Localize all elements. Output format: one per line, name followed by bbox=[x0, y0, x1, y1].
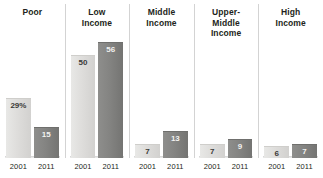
bar-value-label: 9 bbox=[238, 142, 242, 151]
bar-value-label: 29% bbox=[10, 101, 26, 110]
bar-2001[interactable]: 7 bbox=[200, 144, 225, 158]
plot-area: 5056 bbox=[65, 34, 130, 158]
group-header: MiddleIncome bbox=[129, 0, 194, 34]
x-axis-tick-label: 2001 bbox=[135, 162, 160, 171]
bar-value-label: 7 bbox=[302, 147, 306, 156]
bar-2001[interactable]: 29% bbox=[6, 98, 31, 158]
bar-value-label: 15 bbox=[42, 130, 51, 139]
bar-2011[interactable]: 15 bbox=[34, 127, 59, 158]
group-header-line: High bbox=[258, 7, 323, 18]
x-axis: 20012011 bbox=[194, 158, 259, 178]
group-header-line: Income bbox=[129, 18, 194, 29]
bar-value-label: 7 bbox=[145, 147, 149, 156]
group-header-line: Poor bbox=[0, 7, 65, 18]
group-header: HighIncome bbox=[258, 0, 323, 34]
x-axis-tick-label: 2001 bbox=[71, 162, 96, 171]
bar-group: HighIncome6720012011 bbox=[258, 0, 323, 178]
bar-value-label: 6 bbox=[275, 149, 279, 158]
group-header: Poor bbox=[0, 0, 65, 34]
bar-group: LowIncome505620012011 bbox=[65, 0, 130, 178]
x-axis-tick-label: 2011 bbox=[163, 162, 188, 171]
bar-group: MiddleIncome71320012011 bbox=[129, 0, 194, 178]
bar-2011[interactable]: 13 bbox=[163, 131, 188, 158]
grouped-bar-chart: Poor29%1520012011LowIncome505620012011Mi… bbox=[0, 0, 323, 178]
group-header-line: Income bbox=[65, 18, 130, 29]
plot-area: 29%15 bbox=[0, 34, 65, 158]
group-header: LowIncome bbox=[65, 0, 130, 34]
group-header: Upper-MiddleIncome bbox=[194, 0, 259, 34]
group-header-line: Low bbox=[65, 7, 130, 18]
bar-2011[interactable]: 9 bbox=[228, 139, 253, 158]
bar-group: Poor29%1520012011 bbox=[0, 0, 65, 178]
x-axis: 20012011 bbox=[65, 158, 130, 178]
plot-area: 713 bbox=[129, 34, 194, 158]
group-header-line: Income bbox=[258, 18, 323, 29]
x-axis-tick-label: 2011 bbox=[98, 162, 123, 171]
bar-2011[interactable]: 56 bbox=[98, 42, 123, 158]
bar-value-label: 7 bbox=[210, 147, 214, 156]
group-header-line: Upper- bbox=[194, 7, 259, 18]
plot-area: 79 bbox=[194, 34, 259, 158]
bar-2011[interactable]: 7 bbox=[292, 144, 317, 158]
bar-2001[interactable]: 50 bbox=[71, 55, 96, 158]
bar-value-label: 56 bbox=[106, 45, 115, 54]
bar-value-label: 50 bbox=[79, 58, 88, 67]
x-axis: 20012011 bbox=[258, 158, 323, 178]
x-axis-tick-label: 2011 bbox=[34, 162, 59, 171]
x-axis-tick-label: 2001 bbox=[200, 162, 225, 171]
x-axis-tick-label: 2001 bbox=[6, 162, 31, 171]
bar-2001[interactable]: 7 bbox=[135, 144, 160, 158]
bar-value-label: 13 bbox=[171, 134, 180, 143]
plot-area: 67 bbox=[258, 34, 323, 158]
x-axis: 20012011 bbox=[0, 158, 65, 178]
x-axis-tick-label: 2001 bbox=[264, 162, 289, 171]
group-header-line: Middle bbox=[194, 18, 259, 29]
group-header-line: Middle bbox=[129, 7, 194, 18]
bar-group: Upper-MiddleIncome7920012011 bbox=[194, 0, 259, 178]
x-axis-tick-label: 2011 bbox=[292, 162, 317, 171]
bar-2001[interactable]: 6 bbox=[264, 146, 289, 158]
x-axis: 20012011 bbox=[129, 158, 194, 178]
x-axis-tick-label: 2011 bbox=[228, 162, 253, 171]
